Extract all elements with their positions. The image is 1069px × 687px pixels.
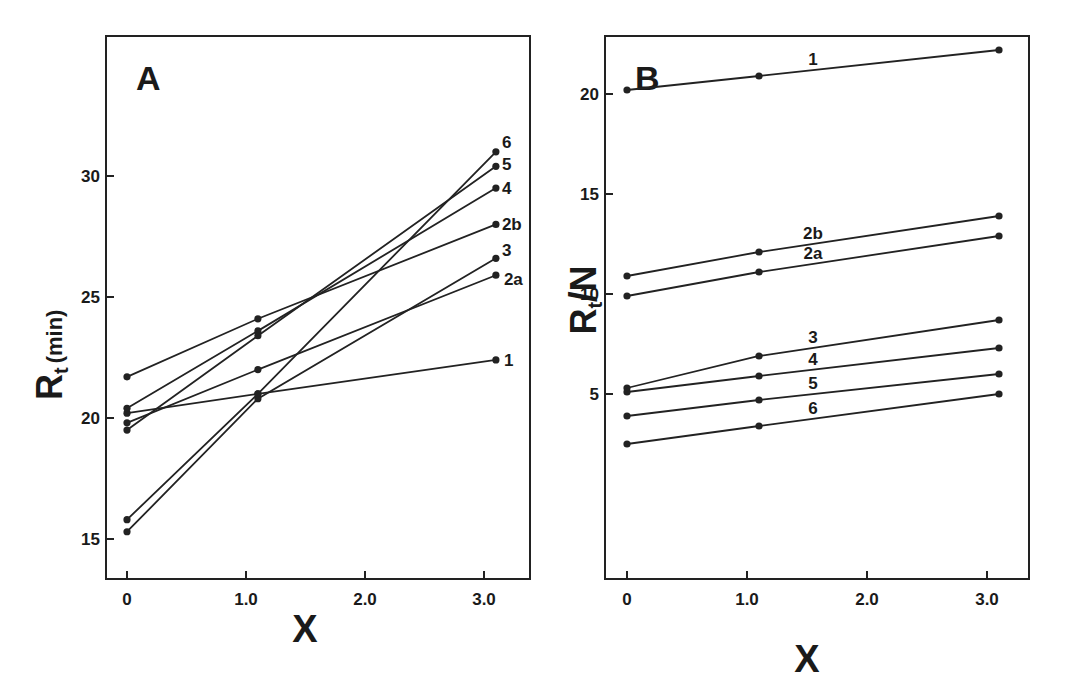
x-tick-label: 3.0 (472, 590, 496, 609)
panel-a-y-ticks: 15202530 (81, 167, 114, 549)
series-line (127, 224, 496, 376)
data-point (755, 422, 762, 429)
data-point (623, 440, 630, 447)
x-tick-label: 0 (622, 590, 631, 609)
svg-text:Rt(min): Rt(min) (29, 310, 72, 400)
data-point (623, 272, 630, 279)
series-line (127, 152, 496, 520)
data-point (755, 248, 762, 255)
panel-b: B 5101520 01.02.03.0 12b2a3456 X Rt/N (562, 36, 1029, 680)
panel-b-series: 12b2a3456 (623, 46, 1002, 447)
data-point (123, 427, 130, 434)
data-point (492, 185, 499, 192)
series-label: 5 (808, 374, 817, 393)
y-label-slash: / (562, 291, 604, 302)
data-point (623, 388, 630, 395)
data-point (123, 528, 130, 535)
data-point (995, 316, 1002, 323)
data-point (623, 412, 630, 419)
series-label: 2a (504, 270, 523, 289)
y-tick-label: 15 (580, 185, 599, 204)
figure-canvas: A 15202530 01.02.03.0 12a2b3456 X Rt(min… (0, 0, 1069, 687)
y-label-main: R (29, 374, 70, 400)
data-point (123, 419, 130, 426)
data-point (995, 370, 1002, 377)
data-point (755, 72, 762, 79)
series-3: 3 (123, 241, 511, 535)
data-point (254, 390, 261, 397)
y-label-denom: N (563, 265, 604, 291)
panel-b-x-ticks: 01.02.03.0 (622, 571, 999, 609)
panel-a-series: 12a2b3456 (123, 133, 523, 536)
series-label: 5 (502, 155, 511, 174)
panel-a-frame (106, 36, 530, 579)
series-label: 4 (502, 179, 512, 198)
panel-b-frame (605, 36, 1029, 579)
data-point (995, 46, 1002, 53)
x-tick-label: 1.0 (234, 590, 258, 609)
data-point (623, 86, 630, 93)
data-point (492, 221, 499, 228)
x-tick-label: 2.0 (353, 590, 377, 609)
data-point (254, 366, 261, 373)
series-6: 6 (123, 133, 511, 523)
y-tick-label: 25 (81, 288, 100, 307)
y-tick-label: 20 (580, 85, 599, 104)
data-point (123, 516, 130, 523)
x-tick-label: 0 (122, 590, 131, 609)
series-label: 2b (502, 215, 522, 234)
series-1: 1 (623, 46, 1002, 93)
data-point (755, 396, 762, 403)
series-4: 4 (123, 179, 512, 412)
x-tick-label: 2.0 (855, 590, 879, 609)
series-label: 4 (808, 350, 818, 369)
y-tick-label: 20 (81, 409, 100, 428)
panel-b-x-axis-label: X (794, 638, 820, 680)
data-point (492, 272, 499, 279)
series-line (127, 166, 496, 430)
panel-b-y-ticks: 5101520 (580, 85, 613, 404)
data-point (995, 232, 1002, 239)
data-point (755, 352, 762, 359)
panel-b-y-axis-label: Rt/N (562, 265, 606, 334)
data-point (995, 390, 1002, 397)
panel-a-x-ticks: 01.02.03.0 (122, 571, 496, 609)
series-label: 2a (804, 244, 823, 263)
series-label: 3 (808, 328, 817, 347)
data-point (492, 163, 499, 170)
series-label: 6 (502, 133, 511, 152)
panel-a-y-axis-label: Rt(min) (29, 310, 72, 400)
y-label-sub: t (50, 367, 72, 374)
series-1: 1 (123, 351, 513, 417)
data-point (123, 373, 130, 380)
series-label: 3 (502, 241, 511, 260)
data-point (623, 292, 630, 299)
panel-a-letter: A (136, 59, 161, 97)
series-2b: 2b (123, 215, 521, 380)
data-point (755, 268, 762, 275)
series-label: 6 (808, 399, 817, 418)
y-label-unit: (min) (42, 310, 67, 364)
series-label: 1 (504, 351, 513, 370)
data-point (995, 212, 1002, 219)
y-tick-label: 15 (81, 530, 100, 549)
series-6: 6 (623, 390, 1002, 447)
data-point (254, 332, 261, 339)
panel-a-x-axis-label: X (292, 608, 318, 650)
data-point (492, 356, 499, 363)
panel-b-letter: B (635, 59, 660, 97)
y-tick-label: 5 (590, 385, 599, 404)
series-label: 1 (808, 50, 817, 69)
x-tick-label: 3.0 (975, 590, 999, 609)
y-tick-label: 30 (81, 167, 100, 186)
data-point (254, 315, 261, 322)
data-point (123, 405, 130, 412)
data-point (492, 255, 499, 262)
x-tick-label: 1.0 (735, 590, 759, 609)
series-label: 2b (803, 224, 823, 243)
panel-a: A 15202530 01.02.03.0 12a2b3456 X Rt(min… (29, 36, 530, 650)
svg-text:Rt/N: Rt/N (562, 265, 606, 334)
data-point (492, 148, 499, 155)
y-label-main: R (563, 309, 604, 335)
data-point (755, 372, 762, 379)
